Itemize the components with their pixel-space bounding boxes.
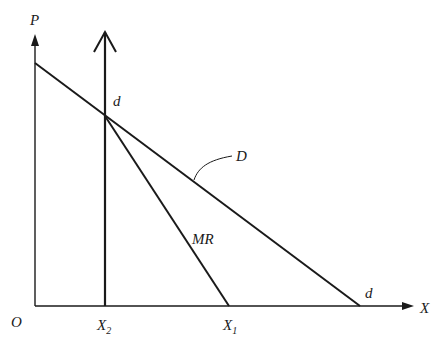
y-axis-arrow-icon [31,34,39,46]
y-axis-label: P [29,12,39,28]
x-axis-label: X [419,300,430,316]
origin-label: O [11,314,22,330]
mr-label: MR [191,231,214,247]
mr-curve [105,116,229,306]
x-axis-arrow-icon [402,302,414,310]
x1-tick-label: X1 [222,317,237,336]
x2-tick-label: X2 [96,317,111,336]
demand-label: D [235,148,247,164]
demand-label-leader [194,156,232,180]
diagram-canvas: P X O d D d MR X2 X1 [0,0,441,341]
demand-end-label: d [365,285,373,301]
intersection-label: d [113,93,121,109]
demand-curve [35,63,360,306]
